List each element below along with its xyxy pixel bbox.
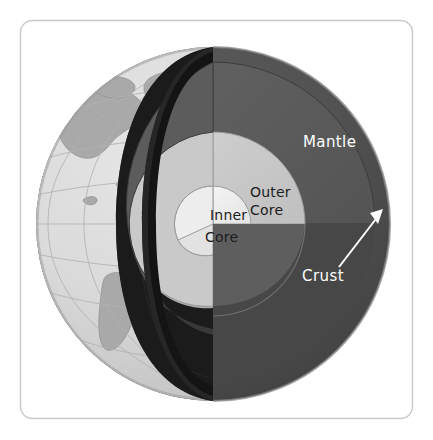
earth-cutaway-figure: Mantle Outer Core Inner Core Crust	[0, 0, 433, 440]
inner-core-label-line2: Core	[205, 229, 238, 245]
earth-cutaway-svg: Mantle Outer Core Inner Core Crust	[0, 0, 433, 440]
crust-label: Crust	[302, 267, 344, 285]
mantle-label: Mantle	[303, 133, 356, 151]
inner-core-label-line1: Inner	[210, 207, 247, 223]
outer-core-label-line2: Core	[250, 202, 283, 218]
outer-core-label-line1: Outer	[250, 184, 291, 200]
globe-group	[36, 47, 390, 401]
